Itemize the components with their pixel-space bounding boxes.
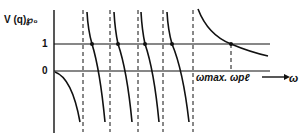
omega-pl-label: ωpℓ xyxy=(230,72,250,83)
dispersion-diagram: V (q)℘₀ 1 0 ωmax. ωpℓ ω xyxy=(0,0,301,135)
level-zero-label: 0 xyxy=(42,65,48,76)
curve-branches xyxy=(55,9,268,122)
omega-max-label: ωmax. xyxy=(196,72,227,83)
level-one-label: 1 xyxy=(42,38,48,49)
y-axis-label: V (q)℘₀ xyxy=(4,14,38,25)
x-axis-label: ω xyxy=(289,72,298,84)
